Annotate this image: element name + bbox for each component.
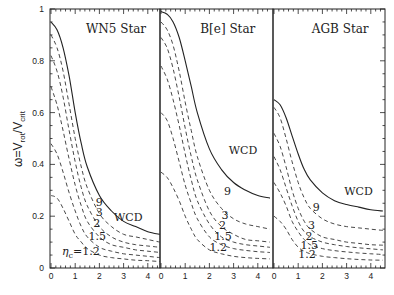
curves-layer [51, 12, 383, 262]
curve-label: 1.5 [89, 230, 107, 243]
curve-eta-2 [274, 157, 383, 250]
y-tick-label: 1 [39, 4, 44, 14]
y-axis-label: ω=Vrot/Vcrit [11, 110, 27, 167]
x-tick-label: 0 [49, 271, 54, 281]
curve-label: 2 [93, 217, 100, 230]
x-tick-label: 0 [159, 271, 164, 281]
y-tick-label: 0.4 [32, 159, 44, 169]
y-tick-label: 0.8 [32, 56, 44, 66]
x-tick-label: 2 [320, 271, 325, 281]
y-tick-label: 0.6 [32, 108, 44, 118]
x-tick-label: 2 [97, 271, 102, 281]
curve-label: 9 [224, 185, 231, 198]
x-tick-label: 3 [121, 271, 126, 281]
curve-label: WCD [114, 211, 143, 224]
curve-wcd [161, 12, 270, 199]
x-tick-label: 3 [231, 271, 236, 281]
panel-title-3: AGB Star [311, 22, 369, 36]
curve-eta-1-2 [274, 216, 383, 260]
curve-label: 1.2 [209, 241, 227, 254]
curve-label: 1.2 [298, 248, 316, 261]
panel-title-1: WN5 Star [86, 22, 146, 36]
curve-eta-3 [161, 38, 270, 243]
chart: 01234WN5 StarWCD9321.5ηc=1.201234B[e] St… [0, 0, 394, 295]
x-tick-label: 4 [145, 271, 150, 281]
x-tick-label: 1 [73, 271, 78, 281]
curve-wcd [51, 22, 160, 234]
x-tick-label: 0 [272, 271, 277, 281]
y-tick-label: 0 [39, 263, 44, 273]
x-tick-label: 4 [368, 271, 373, 281]
labels-layer: 01234WN5 StarWCD9321.5ηc=1.201234B[e] St… [32, 4, 373, 281]
curve-label: WCD [229, 144, 258, 157]
x-tick-label: 1 [296, 271, 301, 281]
curve-label: ηc=1.2 [62, 245, 100, 260]
panel-title-2: B[e] Star [200, 22, 255, 36]
y-tick-label: 0.2 [32, 211, 44, 221]
curve-eta-2 [51, 87, 160, 253]
curve-label: 9 [313, 201, 320, 214]
x-tick-label: 1 [183, 271, 188, 281]
x-tick-label: 3 [344, 271, 349, 281]
curve-eta-9 [274, 107, 383, 230]
curve-label: WCD [344, 185, 373, 198]
x-tick-label: 4 [255, 271, 260, 281]
x-tick-label: 2 [207, 271, 212, 281]
curve-eta-9 [161, 22, 270, 229]
